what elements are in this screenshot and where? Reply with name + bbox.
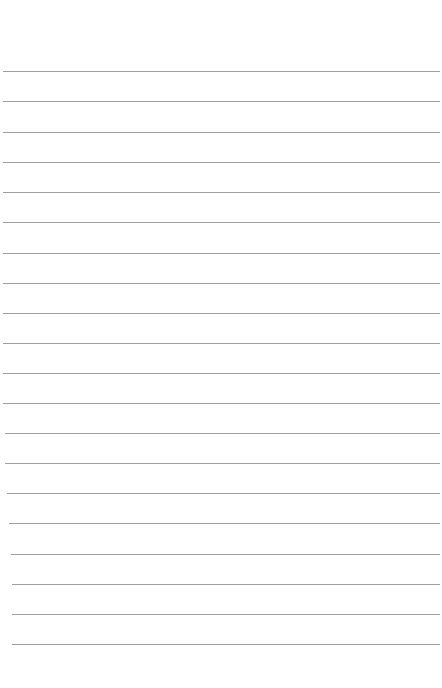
ruled-line (3, 313, 440, 314)
ruled-line (5, 433, 440, 434)
ruled-line (3, 373, 440, 374)
ruled-line (7, 493, 440, 494)
ruled-line (12, 614, 440, 615)
ruled-line (3, 253, 440, 254)
ruled-line (3, 162, 440, 163)
ruled-line (3, 192, 440, 193)
ruled-line (12, 644, 440, 645)
ruled-line (12, 584, 440, 585)
ruled-line (9, 523, 440, 524)
ruled-line (3, 101, 440, 102)
ruled-line (3, 343, 440, 344)
ruled-line (11, 554, 440, 555)
ruled-line (3, 283, 440, 284)
ruled-line (3, 222, 440, 223)
ruled-line (3, 132, 440, 133)
ruled-line (3, 71, 440, 72)
ruled-paper-sheet (0, 0, 442, 688)
ruled-line (5, 463, 440, 464)
ruled-line (3, 403, 440, 404)
